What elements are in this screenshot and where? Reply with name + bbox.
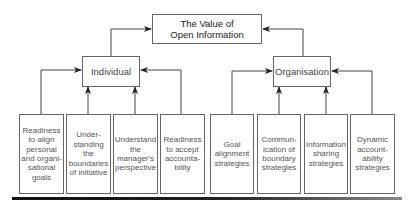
leaf-text: to align [21, 135, 61, 144]
leaf-text: goals [21, 173, 61, 182]
leaf-text: Understand [115, 135, 156, 144]
leaf-text: bility [164, 163, 202, 172]
leaf-readiness-align-goals: Readiness to align personal and organi- … [19, 114, 64, 194]
leaf-text: Information [306, 140, 346, 149]
leaf-text: perspective [115, 163, 156, 172]
leaf-text: and organi- [21, 154, 61, 163]
leaf-text: ability [355, 154, 390, 163]
leaf-dynamic-accountability: Dynamic account- ability strategies [350, 114, 395, 194]
leaf-text: to accept [164, 145, 202, 154]
root-node: The Value of Open Information [152, 14, 262, 44]
leaf-text: strategies [215, 159, 250, 168]
organisation-node: Organisation [273, 56, 331, 87]
leaf-communication-boundary: Commun- ication of boundary strategies [257, 114, 301, 194]
individual-label: Individual [91, 66, 131, 77]
leaf-text: Dynamic [355, 135, 390, 144]
leaf-text: strategies [306, 159, 346, 168]
root-label-line1: The Value of [170, 18, 243, 29]
leaf-text: the [69, 149, 109, 158]
leaf-text: manager's [115, 154, 156, 163]
leaf-information-sharing: Information sharing strategies [304, 114, 348, 194]
leaf-text: standing [69, 140, 109, 149]
leaf-text: strategies [355, 163, 390, 172]
leaf-text: of initiative [69, 168, 109, 177]
leaf-readiness-accountability: Readiness to accept accounta- bility [160, 114, 205, 194]
leaf-text: sational [21, 163, 61, 172]
individual-node: Individual [82, 56, 140, 87]
leaf-understand-manager: Understand the manager's perspective [113, 114, 158, 194]
leaf-text: Goal [215, 140, 250, 149]
leaf-text: ication of [261, 145, 296, 154]
leaf-text: Under- [69, 130, 109, 139]
leaf-text: alignment [215, 149, 250, 158]
organisation-label: Organisation [275, 66, 329, 77]
leaf-goal-alignment: Goal alignment strategies [210, 114, 254, 194]
bottom-rule-divider [12, 197, 402, 200]
arrow-organisation-to-root [263, 29, 303, 56]
leaf-text: Readiness [21, 126, 61, 135]
leaf-text: personal [21, 145, 61, 154]
arrow-leaf1-to-individual [41, 70, 81, 114]
leaf-text: account- [355, 145, 390, 154]
leaf-text: boundaries [69, 159, 109, 168]
leaf-text: Commun- [261, 135, 296, 144]
leaf-text: accounta- [164, 154, 202, 163]
leaf-text: boundary [261, 154, 296, 163]
root-label-line2: Open Information [170, 29, 243, 40]
leaf-text: the [115, 145, 156, 154]
leaf-text: strategies [261, 163, 296, 172]
arrow-leaf4-to-individual [141, 70, 181, 114]
leaf-text: Readiness [164, 135, 202, 144]
arrow-individual-to-root [111, 29, 151, 56]
arrow-leaf8-to-organisation [332, 71, 372, 114]
arrow-leaf5-to-organisation [232, 71, 272, 114]
leaf-understanding-boundaries: Under- standing the boundaries of initia… [66, 114, 111, 194]
leaf-text: sharing [306, 149, 346, 158]
